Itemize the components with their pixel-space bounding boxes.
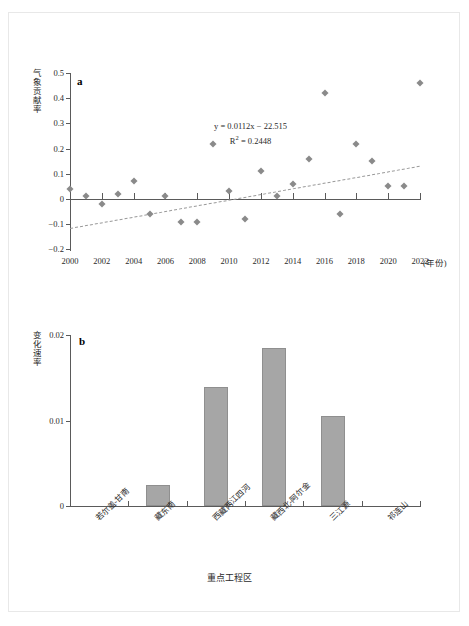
chart-a-y-tick [66, 174, 70, 175]
chart-a-data-point [369, 158, 376, 165]
chart-b-y-axis [70, 335, 71, 507]
chart-a-x-tick [197, 193, 198, 200]
chart-b-y-tick-label: 0.02 [35, 330, 64, 340]
chart-a-y-tick [66, 224, 70, 225]
chart-a-data-point [241, 216, 248, 223]
chart-b-y-tick-label: 0.01 [35, 416, 64, 426]
chart-a-y-tick-label: 0.1 [37, 169, 64, 179]
chart-b-x-tick [362, 501, 363, 507]
chart-a-x-tick [293, 193, 294, 200]
chart-a-x-tick [102, 193, 103, 200]
chart-b-y-tick [66, 335, 70, 336]
chart-b-x-tick [128, 501, 129, 507]
chart-a-data-point [178, 218, 185, 225]
r-value: = 0.2448 [239, 136, 271, 146]
chart-b-x-axis-title: 重点工程区 [207, 571, 252, 584]
panel-a-letter: a [77, 75, 83, 87]
chart-a-y-tick-label: 0.2 [37, 144, 64, 154]
chart-b-category-label: 祁连山 [385, 498, 410, 523]
chart-a-data-point [66, 185, 73, 192]
chart-a-x-tick-label: 2020 [374, 256, 402, 266]
chart-a-x-tick-label: 2016 [311, 256, 339, 266]
chart-a-x-tick-label: 2004 [120, 256, 148, 266]
chart-a-x-tick [420, 193, 421, 200]
chart-a-x-tick-label: 2014 [279, 256, 307, 266]
chart-a-y-axis [70, 73, 71, 251]
chart-a-data-point [321, 90, 328, 97]
chart-a-x-tick-label: 2000 [56, 256, 84, 266]
chart-a-x-tick-label: 2006 [151, 256, 179, 266]
chart-a-x-tick-label: 2002 [88, 256, 116, 266]
chart-a-x-tick-label: 2018 [342, 256, 370, 266]
chart-b-x-tick [245, 501, 246, 507]
chart-a-y-tick-label: 0 [37, 194, 64, 204]
chart-b-x-tick [187, 501, 188, 507]
chart-a-data-point [353, 140, 360, 147]
chart-a-x-tick [70, 193, 71, 200]
chart-a-y-tick-label: 0.3 [37, 118, 64, 128]
chart-b-category-label: 若尔盖-甘南 [93, 485, 131, 523]
chart-a-y-tick [66, 123, 70, 124]
chart-a-data-point [385, 183, 392, 190]
chart-a-y-tick-label: 0.4 [37, 93, 64, 103]
chart-a-y-tick [66, 149, 70, 150]
chart-a-r-squared-line: R2 = 0.2448 [214, 132, 287, 147]
chart-a-x-tick [388, 193, 389, 200]
chart-a-data-point [401, 183, 408, 190]
chart-a-data-point [257, 168, 264, 175]
chart-a-x-axis [70, 199, 420, 200]
chart-a-data-point [146, 211, 153, 218]
chart-a-scatter: a 气象贡献率 0.50.40.30.20.10−0.1−0.2 2000200… [9, 13, 469, 283]
chart-a-y-tick [66, 249, 70, 250]
chart-a-x-tick [325, 193, 326, 200]
chart-a-data-point [305, 155, 312, 162]
chart-a-y-tick [66, 98, 70, 99]
chart-a-y-tick [66, 73, 70, 74]
chart-a-x-tick-label: 2012 [247, 256, 275, 266]
chart-a-data-point [337, 211, 344, 218]
chart-a-x-tick-label: 2010 [215, 256, 243, 266]
chart-a-x-tick [134, 193, 135, 200]
chart-a-y-tick-label: −0.1 [37, 219, 64, 229]
chart-a-data-point [98, 200, 105, 207]
panel-b-letter: b [79, 335, 85, 347]
chart-a-data-point [289, 180, 296, 187]
chart-a-equation-annotation: y = 0.0112x − 22.515 R2 = 0.2448 [214, 121, 287, 147]
chart-b-bar [204, 387, 228, 506]
chart-a-x-tick [356, 193, 357, 200]
chart-a-data-point [114, 190, 121, 197]
chart-a-y-tick-label: −0.2 [37, 244, 64, 254]
chart-b-bar: b 变化速率 0.020.010 若尔盖-甘南藏东南西藏两江四河藏西北-阿尔金三… [9, 313, 469, 613]
chart-b-bar [262, 348, 286, 506]
chart-b-x-tick [70, 501, 71, 507]
figure-frame: a 气象贡献率 0.50.40.30.20.10−0.1−0.2 2000200… [8, 12, 460, 612]
chart-a-data-point [416, 80, 423, 87]
chart-b-y-tick [66, 421, 70, 422]
chart-a-x-tick-label: 2008 [183, 256, 211, 266]
chart-a-data-point [194, 218, 201, 225]
chart-a-equation-line: y = 0.0112x − 22.515 [214, 121, 287, 132]
chart-a-y-tick-label: 0.5 [37, 68, 64, 78]
chart-b-x-tick [303, 501, 304, 507]
chart-b-x-tick [420, 501, 421, 507]
chart-b-y-tick-label: 0 [35, 501, 64, 511]
chart-a-x-axis-unit: (年份) [423, 256, 447, 268]
chart-b-bar [321, 416, 345, 506]
chart-a-data-point [226, 188, 233, 195]
chart-a-data-point [130, 178, 137, 185]
